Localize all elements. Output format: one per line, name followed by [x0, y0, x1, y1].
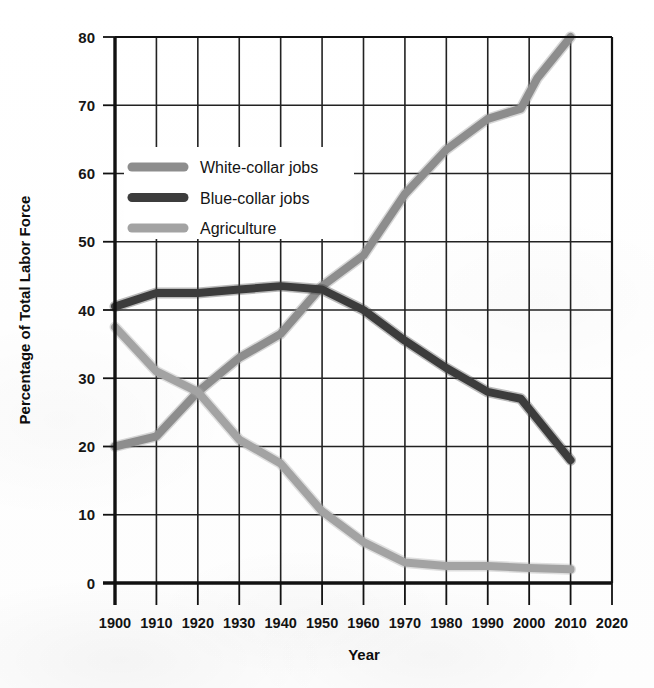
axis-lines	[103, 37, 612, 605]
y-tick-label: 20	[78, 438, 95, 455]
x-tick-label: 1990	[472, 615, 504, 631]
y-tick-label: 70	[78, 97, 95, 114]
x-tick-label: 1940	[265, 615, 297, 631]
series-line-halo-3	[115, 327, 571, 569]
x-tick-label: 2020	[596, 615, 628, 631]
x-axis-tick-labels: 1900191019201930194019501960197019801990…	[99, 615, 628, 631]
legend-label-1: White-collar jobs	[200, 159, 318, 176]
y-axis-title: Percentage of Total Labor Force	[16, 196, 33, 425]
y-tick-label: 40	[78, 302, 95, 319]
x-tick-label: 1930	[223, 615, 255, 631]
y-tick-label: 30	[78, 370, 95, 387]
axis-ticks	[103, 37, 612, 605]
labor-force-line-chart: 80706050403020100 1900191019201930194019…	[0, 0, 654, 688]
y-tick-label: 10	[78, 506, 95, 523]
series-line-halo-2	[115, 286, 571, 460]
x-tick-label: 1970	[389, 615, 421, 631]
y-tick-label: 50	[78, 233, 95, 250]
x-tick-label: 1950	[306, 615, 338, 631]
y-axis-tick-labels: 80706050403020100	[78, 29, 95, 592]
legend-label-3: Agriculture	[200, 220, 277, 237]
x-tick-label: 1910	[140, 615, 172, 631]
y-tick-label: 80	[78, 29, 95, 46]
legend-label-2: Blue-collar jobs	[200, 190, 309, 207]
series-lines	[115, 37, 571, 569]
legend: White-collar jobsBlue-collar jobsAgricul…	[124, 147, 354, 239]
x-tick-label: 1900	[99, 615, 131, 631]
series-line-blue-collar-jobs	[115, 286, 571, 460]
x-axis-title: Year	[348, 646, 380, 663]
chart-canvas: 80706050403020100 1900191019201930194019…	[0, 0, 654, 688]
x-tick-label: 2010	[554, 615, 586, 631]
y-tick-label: 60	[78, 165, 95, 182]
y-tick-label: 0	[87, 575, 95, 592]
x-tick-label: 1960	[347, 615, 379, 631]
x-tick-label: 1980	[430, 615, 462, 631]
x-tick-label: 2000	[513, 615, 545, 631]
x-tick-label: 1920	[182, 615, 214, 631]
